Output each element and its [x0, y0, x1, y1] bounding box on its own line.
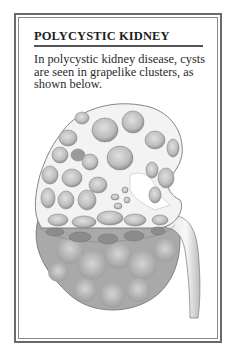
panel-title: POLYCYSTIC KIDNEY [34, 29, 170, 44]
description-line: In polycystic kidney disease, cysts [34, 53, 214, 66]
title-divider [34, 45, 203, 47]
polycystic-kidney-illustration [30, 100, 210, 330]
description-line: shown below. [34, 78, 214, 91]
panel-description: In polycystic kidney disease, cysts are … [34, 53, 214, 91]
